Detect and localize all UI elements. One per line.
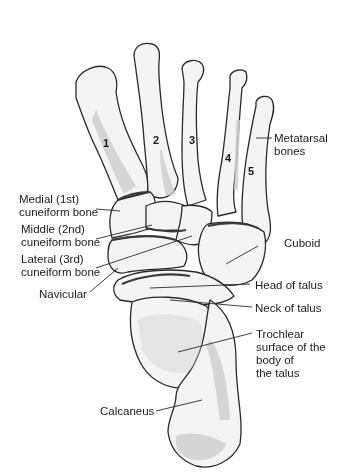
metatarsal-number-1: 1 [103,137,109,149]
label-metatarsal-bones: Metatarsal bones [274,132,328,158]
metatarsal-number-2: 2 [153,134,159,146]
label-lateral-cuneiform: Lateral (3rd) cuneiform bone [21,253,100,279]
metatarsal-number-5: 5 [248,165,254,177]
label-trochlear-surface: Trochlear surface of the body of the tal… [256,328,326,380]
foot-bones-diagram: 1 2 3 4 5 Metatarsal bones Cuboid Head o… [0,0,346,476]
label-cuboid: Cuboid [284,237,320,250]
label-middle-cuneiform: Middle (2nd) cuneiform bone [21,223,100,249]
label-navicular: Navicular [39,288,87,301]
label-calcaneus: Calcaneus [100,405,154,418]
metatarsal-1 [76,66,148,200]
metatarsal-number-3: 3 [189,134,195,146]
metatarsal-number-4: 4 [225,152,231,164]
label-medial-cuneiform: Medial (1st) cuneiform bone [19,193,98,219]
label-neck-of-talus: Neck of talus [255,302,321,315]
label-head-of-talus: Head of talus [255,279,323,292]
